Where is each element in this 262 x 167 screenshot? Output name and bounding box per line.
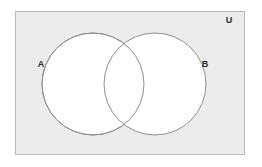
venn-diagram-canvas: U A B <box>0 0 262 167</box>
set-b-label: B <box>202 59 209 69</box>
venn-diagram-figure: U A B <box>0 0 262 167</box>
set-b-circle <box>104 33 206 135</box>
set-a-label: A <box>38 59 45 69</box>
universal-set-label: U <box>226 15 233 25</box>
